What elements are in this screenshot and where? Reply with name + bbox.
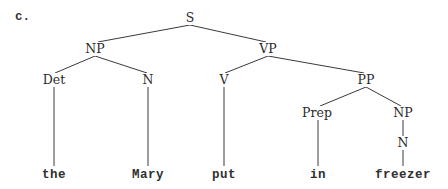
edge-NP1-Det: [55, 56, 95, 73]
node-PP: PP: [357, 73, 376, 87]
leaf-freezer: freezer: [374, 168, 432, 182]
node-VP: VP: [258, 42, 277, 56]
edge-PP-Prep: [320, 87, 366, 106]
leaf-Mary: Mary: [131, 168, 165, 182]
node-Prep: Prep: [301, 106, 333, 120]
node-Det: Det: [42, 73, 66, 87]
edge-VP-V: [225, 56, 268, 73]
leaf-put: put: [211, 168, 237, 182]
node-NP-subject: NP: [84, 42, 105, 56]
leaf-the: the: [41, 168, 67, 182]
node-V: V: [218, 73, 229, 87]
node-N-subject: N: [142, 73, 155, 87]
edge-NP1-N1: [95, 56, 147, 73]
edge-VP-PP: [268, 56, 364, 73]
node-NP-object: NP: [392, 106, 413, 120]
node-N-object: N: [397, 136, 410, 150]
edge-S-NP1: [98, 25, 190, 42]
edge-PP-NP2: [366, 87, 401, 106]
leaf-in: in: [309, 168, 327, 182]
edge-S-VP: [190, 25, 266, 42]
node-S: S: [185, 11, 196, 25]
syntax-tree-edges: [0, 0, 448, 189]
